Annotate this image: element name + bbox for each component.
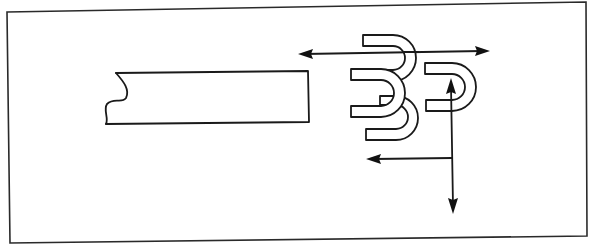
diagram-canvas: [0, 0, 589, 244]
arrow-left: [366, 154, 452, 164]
diagram-svg: [0, 0, 589, 244]
broken-end-wave: [106, 73, 128, 124]
rod-bar: [106, 71, 309, 124]
u-shape-middle: [351, 69, 405, 117]
arrow-horizontal-double: [298, 46, 490, 59]
